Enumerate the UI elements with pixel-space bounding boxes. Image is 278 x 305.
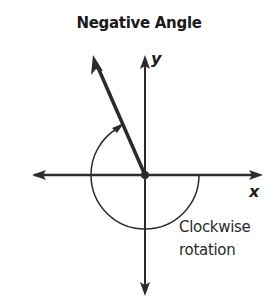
rotation-annotation: Clockwise rotation [179, 216, 251, 262]
terminal-ray [91, 55, 145, 175]
terminal-side [96, 63, 145, 175]
negative-angle-diagram: Negative Angle [0, 0, 278, 305]
y-axis-label: y [151, 49, 161, 68]
x-axis-label: x [249, 182, 259, 201]
origin-point [141, 171, 149, 179]
annotation-line-1: Clockwise [179, 216, 251, 239]
annotation-line-2: rotation [179, 239, 251, 262]
